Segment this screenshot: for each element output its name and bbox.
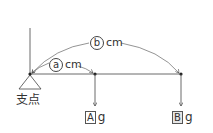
fulcrum-point: [28, 72, 31, 75]
distance-b-unit: cm: [106, 36, 123, 49]
weight-a-label: Ag: [85, 111, 105, 124]
weight-b-label: Bg: [172, 111, 193, 124]
distance-b-label: bcm: [90, 36, 123, 50]
distance-a-symbol: a: [49, 58, 63, 72]
distance-b-arc-right: [121, 43, 179, 73]
weight-a-symbol: A: [85, 111, 96, 124]
distance-a-label: acm: [49, 58, 82, 72]
weight-b-unit: g: [185, 110, 193, 124]
fulcrum-triangle: [19, 75, 41, 89]
weight-a-unit: g: [98, 110, 106, 124]
distance-a-unit: cm: [65, 58, 82, 71]
fulcrum-label: 支点: [16, 94, 40, 106]
weight-b-symbol: B: [172, 111, 183, 124]
distance-b-symbol: b: [90, 36, 104, 50]
